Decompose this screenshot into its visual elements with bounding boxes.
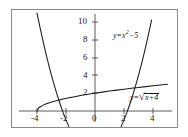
x-tick-label-zero: 0 bbox=[92, 114, 97, 123]
function-graph-figure: 10 8 6 4 2 -4 -2 0 2 4 y=x2−5 y=√x+4 bbox=[0, 0, 188, 137]
y-tick-label-2: 2 bbox=[83, 88, 88, 97]
x-tick-label-minus2: -2 bbox=[60, 114, 68, 123]
plot-frame: 10 8 6 4 2 -4 -2 0 2 4 y=x2−5 y=√x+4 bbox=[11, 9, 178, 128]
y-tick-label-10: 10 bbox=[78, 17, 87, 26]
radical-sign: √ bbox=[139, 92, 145, 102]
y-tick-label-4: 4 bbox=[83, 71, 88, 80]
parabola-label-constant: 5 bbox=[134, 31, 138, 40]
sqrt-equation-label: y=√x+4 bbox=[130, 93, 159, 102]
x-tick-label-minus4: -4 bbox=[31, 114, 39, 123]
parabola-equation-label: y=x2−5 bbox=[113, 32, 138, 40]
plot-canvas bbox=[12, 10, 177, 127]
x-tick-label-4: 4 bbox=[150, 114, 155, 123]
y-tick-label-6: 6 bbox=[83, 53, 88, 62]
curve-parabola-left bbox=[37, 13, 81, 127]
y-tick-label-8: 8 bbox=[83, 35, 88, 44]
radicand: x+4 bbox=[144, 93, 159, 102]
radical-group: √x+4 bbox=[139, 93, 159, 102]
sqrt-label-radicand-constant: 4 bbox=[154, 93, 158, 102]
x-tick-label-2: 2 bbox=[121, 114, 126, 123]
